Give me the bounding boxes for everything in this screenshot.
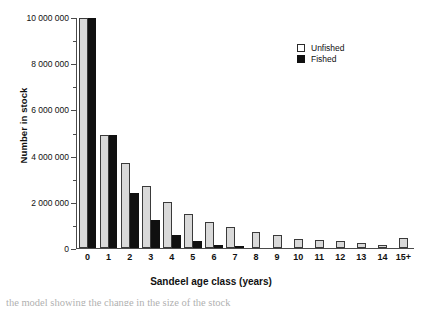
x-axis-tick-label: 14 xyxy=(372,252,393,262)
bar-group xyxy=(372,18,393,248)
x-axis-tick-label: 0 xyxy=(77,252,98,262)
legend-item-unfished: Unfished xyxy=(297,42,345,53)
y-axis-tick-label: 10 000 000 xyxy=(26,13,69,23)
y-axis-tick-major xyxy=(71,249,76,250)
bar-unfished-age-13 xyxy=(357,243,366,248)
bar-unfished-age-6 xyxy=(205,222,214,248)
y-axis-tick-major xyxy=(71,18,76,19)
bar-fished-age-3 xyxy=(151,220,160,248)
bar-fished-age-4 xyxy=(172,235,181,248)
x-axis-tick-labels: 0123456789101112131415+ xyxy=(77,252,414,262)
y-axis-tick-minor xyxy=(73,180,76,181)
bar-unfished-age-2 xyxy=(121,163,130,248)
figure-caption-fragment: the model showing the change in the size… xyxy=(6,297,422,306)
bar-group xyxy=(119,18,140,248)
bar-unfished-age-12 xyxy=(336,241,345,248)
bar-unfished-age-8 xyxy=(252,232,261,248)
bar-group xyxy=(77,18,98,248)
legend: Unfished Fished xyxy=(297,42,345,64)
x-axis-tick-label: 6 xyxy=(203,252,224,262)
legend-label-fished: Fished xyxy=(311,54,337,64)
sandeel-stock-bar-chart: Number in stock 02 000 0004 000 0006 000… xyxy=(0,0,422,310)
bar-group xyxy=(161,18,182,248)
x-axis-tick-label: 9 xyxy=(267,252,288,262)
bar-group xyxy=(182,18,203,248)
y-axis-tick-minor xyxy=(73,87,76,88)
bar-unfished-age-7 xyxy=(226,227,235,248)
y-axis-tick-label: 2 000 000 xyxy=(31,198,69,208)
bar-unfished-age-5 xyxy=(184,214,193,249)
x-axis-tick-label: 1 xyxy=(98,252,119,262)
x-axis-title: Sandeel age class (years) xyxy=(0,276,422,287)
x-axis-tick-label: 8 xyxy=(246,252,267,262)
legend-swatch-fished xyxy=(297,55,305,63)
x-axis-tick-label: 10 xyxy=(288,252,309,262)
legend-label-unfished: Unfished xyxy=(311,43,345,53)
bar-unfished-age-9 xyxy=(273,235,282,248)
bar-fished-age-7 xyxy=(235,246,244,248)
bar-group xyxy=(246,18,267,248)
bar-fished-age-5 xyxy=(193,241,202,248)
x-axis-tick-label: 15+ xyxy=(393,252,414,262)
bar-group xyxy=(267,18,288,248)
x-axis-tick-label: 4 xyxy=(161,252,182,262)
x-axis-tick-label: 5 xyxy=(182,252,203,262)
legend-item-fished: Fished xyxy=(297,53,345,64)
y-axis-tick-major xyxy=(71,64,76,65)
bar-unfished-age-11 xyxy=(315,240,324,248)
y-axis-tick-label: 0 xyxy=(64,244,69,254)
legend-swatch-unfished xyxy=(297,44,305,52)
bar-group xyxy=(98,18,119,248)
bar-fished-age-0 xyxy=(88,18,97,248)
x-axis-tick-label: 11 xyxy=(309,252,330,262)
bar-group xyxy=(351,18,372,248)
x-axis-line xyxy=(76,248,414,249)
bar-unfished-age-4 xyxy=(163,202,172,248)
y-axis-tick-minor xyxy=(73,226,76,227)
y-axis-tick-major xyxy=(71,157,76,158)
bar-unfished-age-1 xyxy=(100,135,109,248)
x-axis-tick-label: 7 xyxy=(224,252,245,262)
y-axis-tick-label: 4 000 000 xyxy=(31,152,69,162)
bar-unfished-age-3 xyxy=(142,186,151,248)
bar-fished-age-2 xyxy=(130,193,139,248)
bar-unfished-age-14 xyxy=(378,245,387,248)
bar-unfished-age-15+ xyxy=(399,238,408,248)
bar-group xyxy=(140,18,161,248)
bar-unfished-age-0 xyxy=(79,18,88,248)
x-axis-tick-label: 3 xyxy=(140,252,161,262)
y-axis-title: Number in stock xyxy=(18,41,29,211)
bar-unfished-age-10 xyxy=(294,239,303,248)
bar-groups xyxy=(77,18,414,248)
plot-area: 02 000 0004 000 0006 000 0008 000 00010 … xyxy=(76,18,414,249)
y-axis-tick-major xyxy=(71,203,76,204)
y-axis-tick-label: 6 000 000 xyxy=(31,105,69,115)
bar-group xyxy=(203,18,224,248)
x-axis-tick-label: 12 xyxy=(330,252,351,262)
bar-group xyxy=(224,18,245,248)
bar-group xyxy=(393,18,414,248)
x-axis-tick-label: 13 xyxy=(351,252,372,262)
y-axis-tick-major xyxy=(71,110,76,111)
x-axis-tick-label: 2 xyxy=(119,252,140,262)
bar-fished-age-1 xyxy=(109,135,118,248)
y-axis-tick-label: 8 000 000 xyxy=(31,59,69,69)
y-axis-tick-minor xyxy=(73,41,76,42)
y-axis-tick-minor xyxy=(73,134,76,135)
bar-fished-age-6 xyxy=(214,245,223,248)
